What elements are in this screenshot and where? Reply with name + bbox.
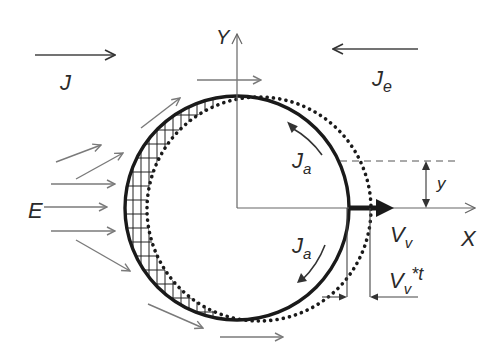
bubble-displacement-diagram: J Je bbox=[0, 0, 501, 356]
e-arrow-1 bbox=[56, 145, 101, 162]
j-label: J bbox=[59, 70, 72, 95]
surface-arrow-upper-1 bbox=[141, 98, 180, 128]
e-label: E bbox=[28, 198, 43, 223]
surface-arrow-lower-1 bbox=[148, 304, 203, 328]
ja-top-label: Ja bbox=[291, 148, 311, 177]
vv-t-label: Vv*t bbox=[389, 264, 424, 297]
dotted-displaced-bubble-outline bbox=[147, 97, 371, 321]
y-dimension-arrow bbox=[422, 161, 430, 208]
vv-label: Vv bbox=[390, 222, 414, 251]
surface-arrow-upper-2 bbox=[76, 153, 123, 179]
e-arrow-5 bbox=[76, 240, 130, 271]
y-dimension-label: y bbox=[436, 174, 447, 193]
surface-flow-arrows bbox=[76, 98, 283, 337]
x-axis-label: X bbox=[460, 226, 477, 251]
je-label: Je bbox=[371, 66, 392, 95]
ja-bottom-label: Ja bbox=[291, 233, 311, 262]
y-axis-label: Y bbox=[216, 26, 231, 48]
e-field-arrows bbox=[44, 145, 130, 271]
